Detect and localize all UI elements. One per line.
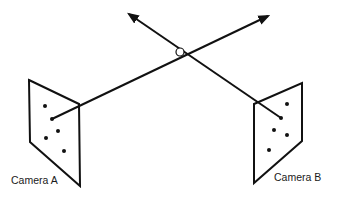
camera-b-label: Camera B: [274, 171, 321, 183]
camera-b-point: [272, 128, 276, 132]
camera-a-label: Camera A: [11, 174, 58, 186]
camera-a-point: [62, 149, 66, 153]
ray-from-camera-a: [52, 16, 268, 119]
camera-a-point: [44, 136, 48, 140]
camera-a-point: [56, 129, 60, 133]
camera-a-image-plane: [29, 80, 80, 186]
triangulation-diagram: Camera A Camera B: [0, 0, 341, 197]
camera-a-point: [43, 104, 47, 108]
camera-a: Camera A: [11, 80, 80, 186]
intersection-marker: [176, 48, 184, 56]
camera-b-point: [285, 102, 289, 106]
ray-from-camera-b: [129, 14, 281, 118]
camera-b-image-plane: [254, 83, 302, 183]
camera-b: Camera B: [254, 83, 321, 183]
camera-b-point: [267, 148, 271, 152]
camera-b-point: [285, 133, 289, 137]
